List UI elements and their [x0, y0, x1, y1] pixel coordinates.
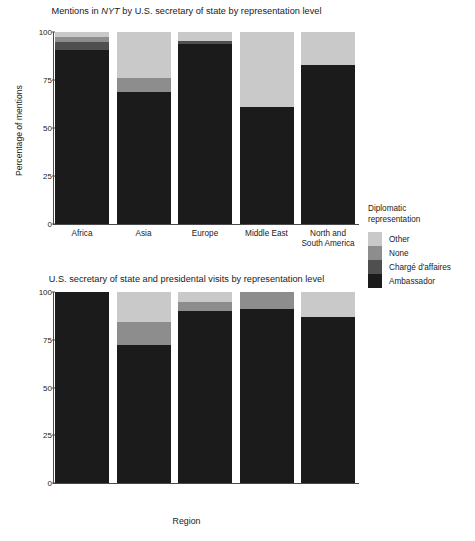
bar-segment[interactable] [117, 92, 171, 224]
x-axis-tick-labels-mentions: AfricaAsiaEuropeMiddle EastNorth andSout… [55, 229, 355, 249]
legend-item[interactable]: Other [368, 232, 473, 246]
bar-segment[interactable] [117, 322, 171, 345]
bar-segment[interactable] [178, 292, 232, 302]
bar-segment[interactable] [117, 292, 171, 322]
chart-title-visits-text: U.S. secretary of state and presidental … [49, 274, 325, 284]
bar-group [117, 32, 171, 224]
x-axis-line-mentions [53, 224, 359, 225]
legend-swatch [368, 260, 382, 274]
legend-swatch [368, 246, 382, 260]
legend-swatch [368, 274, 382, 288]
bar-segment[interactable] [301, 292, 355, 317]
stacked-bar[interactable] [301, 292, 355, 483]
bar-series-mentions [55, 32, 355, 224]
x-tick-label: Africa [55, 229, 109, 249]
legend: Diplomatic representation OtherNoneCharg… [368, 204, 473, 288]
legend-item[interactable]: Ambassador [368, 274, 473, 288]
bar-segment[interactable] [55, 50, 109, 224]
bar-segment[interactable] [178, 311, 232, 483]
bar-group [301, 32, 355, 224]
bar-segment[interactable] [240, 292, 294, 309]
x-tick-label: Middle East [240, 229, 294, 249]
legend-label: None [389, 249, 409, 258]
bar-segment[interactable] [178, 302, 232, 311]
bar-segment[interactable] [55, 37, 109, 42]
stacked-bar[interactable] [178, 32, 232, 224]
bar-group [240, 32, 294, 224]
chart-title-mentions: Mentions in NYT by U.S. secretary of sta… [0, 6, 475, 16]
x-axis-line-visits [53, 483, 359, 484]
bar-group [301, 292, 355, 483]
y-tick-label: 25 [43, 431, 52, 440]
y-axis-label-mentions: Percentage of mentions [14, 85, 24, 176]
x-tick-label: North andSouth America [301, 229, 355, 249]
chart-title-mentions-after: by U.S. secretary of state by representa… [120, 6, 322, 16]
chart-title-mentions-before: Mentions in [52, 6, 102, 16]
stacked-bar[interactable] [55, 32, 109, 224]
legend-label: Ambassador [389, 277, 435, 286]
legend-swatch [368, 232, 382, 246]
bar-segment[interactable] [55, 42, 109, 50]
bar-segment[interactable] [117, 32, 171, 78]
plot-area-visits: 0255075100 [55, 292, 355, 483]
x-tick-label: Europe [178, 229, 232, 249]
bar-segment[interactable] [301, 32, 355, 65]
bar-segment[interactable] [240, 32, 294, 107]
bar-series-visits [55, 292, 355, 483]
bar-segment[interactable] [55, 292, 109, 483]
figure-root: Mentions in NYT by U.S. secretary of sta… [0, 0, 475, 541]
y-tick-label: 75 [43, 335, 52, 344]
bar-segment[interactable] [178, 44, 232, 224]
bar-group [178, 32, 232, 224]
bar-group [178, 292, 232, 483]
stacked-bar[interactable] [301, 32, 355, 224]
bar-group [240, 292, 294, 483]
bar-segment[interactable] [240, 107, 294, 224]
y-tick-label: 100 [39, 28, 52, 37]
x-axis-label-region: Region [0, 516, 475, 526]
plot-area-mentions: 0255075100 [55, 32, 355, 224]
legend-items: OtherNoneChargé d'affairesAmbassador [368, 232, 473, 288]
bar-segment[interactable] [178, 41, 232, 44]
legend-title-line2: representation [368, 215, 420, 224]
chart-panel-visits: U.S. secretary of state and presidental … [0, 268, 475, 541]
stacked-bar[interactable] [117, 292, 171, 483]
stacked-bar[interactable] [55, 292, 109, 483]
bar-group [117, 292, 171, 483]
legend-label: Other [389, 235, 409, 244]
y-tick-label: 75 [43, 76, 52, 85]
stacked-bar[interactable] [240, 32, 294, 224]
stacked-bar[interactable] [240, 292, 294, 483]
bar-segment[interactable] [55, 32, 109, 37]
bar-segment[interactable] [117, 345, 171, 483]
y-tick-label: 50 [43, 124, 52, 133]
legend-item[interactable]: None [368, 246, 473, 260]
stacked-bar[interactable] [178, 292, 232, 483]
legend-item[interactable]: Chargé d'affaires [368, 260, 473, 274]
y-tick-label: 25 [43, 172, 52, 181]
y-tick-label: 100 [39, 288, 52, 297]
bar-group [55, 292, 109, 483]
bar-segment[interactable] [301, 65, 355, 224]
x-tick-label: Asia [117, 229, 171, 249]
bar-group [55, 32, 109, 224]
legend-label: Chargé d'affaires [389, 263, 451, 272]
y-tick-label: 50 [43, 383, 52, 392]
stacked-bar[interactable] [117, 32, 171, 224]
chart-title-mentions-italic: NYT [101, 6, 119, 16]
legend-title: Diplomatic representation [368, 204, 473, 225]
bar-segment[interactable] [301, 317, 355, 483]
legend-title-line1: Diplomatic [368, 204, 406, 213]
bar-segment[interactable] [117, 78, 171, 92]
bar-segment[interactable] [178, 32, 232, 41]
bar-segment[interactable] [240, 309, 294, 483]
